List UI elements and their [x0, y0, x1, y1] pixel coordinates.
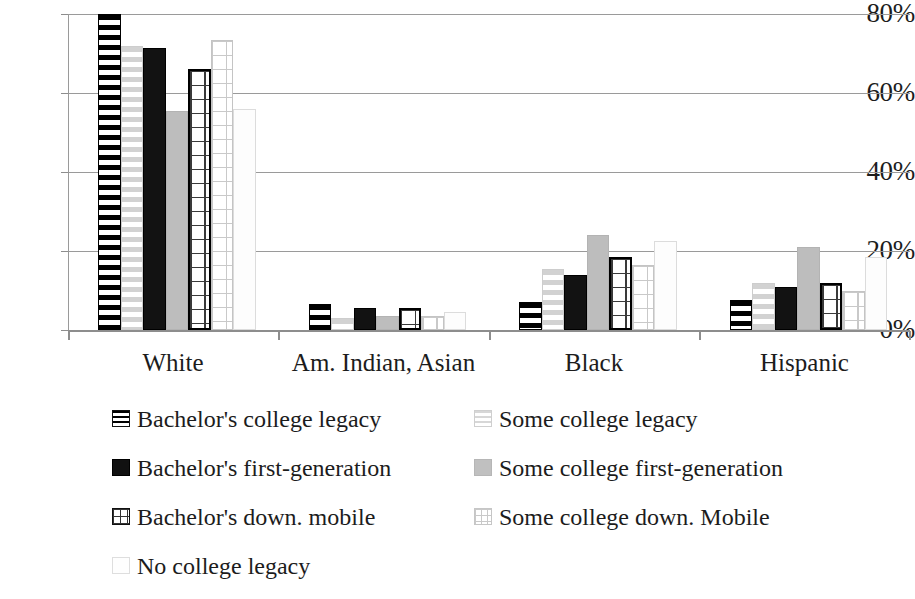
- x-category-label-amindian: Am. Indian, Asian: [278, 348, 489, 378]
- bar: [331, 318, 354, 330]
- x-axis-tick-4: [909, 331, 911, 340]
- bar: [166, 111, 189, 330]
- bar: [376, 316, 399, 330]
- legend-swatch-icon: [474, 508, 492, 525]
- x-axis-tick-3: [699, 331, 701, 340]
- legend-item-label: Bachelor's first-generation: [137, 453, 391, 483]
- bar: [820, 283, 843, 330]
- bar: [211, 40, 234, 330]
- legend-swatch-icon: [474, 459, 492, 476]
- bar: [865, 257, 888, 330]
- legend-item-label: Bachelor's college legacy: [137, 404, 381, 434]
- y-axis-tick-80: [61, 14, 68, 15]
- legend-item-some-college-first-generation: Some college first-generation: [474, 453, 894, 483]
- x-category-label-white: White: [68, 348, 278, 378]
- bar: [143, 48, 166, 330]
- legend-item-bachelors-down-mobile: Bachelor's down. mobile: [112, 502, 474, 532]
- chart-legend: Bachelor's college legacy Some college l…: [112, 404, 902, 599]
- y-axis-tick-60: [61, 93, 68, 94]
- legend-item-label: Some college legacy: [499, 404, 698, 434]
- bar: [609, 257, 632, 330]
- legend-item-some-college-down-mobile: Some college down. Mobile: [474, 502, 894, 532]
- bar-chart: 80% 60% 40% 20% 0% White Am. Indian, Asi…: [0, 0, 915, 599]
- legend-row: Bachelor's down. mobile Some college dow…: [112, 502, 902, 551]
- y-axis-tick-0: [61, 330, 68, 331]
- bar: [309, 304, 332, 330]
- bar: [188, 69, 211, 330]
- legend-swatch-icon: [112, 557, 130, 574]
- bar: [542, 269, 565, 330]
- legend-item-bachelors-first-generation: Bachelor's first-generation: [112, 453, 474, 483]
- bar: [121, 46, 144, 330]
- y-axis-tick-40: [61, 172, 68, 173]
- bar: [654, 241, 677, 330]
- bar-group-am-indian-asian: [309, 14, 467, 330]
- y-axis-tick-20: [61, 251, 68, 252]
- x-axis-tick-0: [68, 331, 70, 340]
- legend-swatch-icon: [112, 410, 130, 427]
- bar: [587, 235, 610, 330]
- plot-area: [68, 14, 910, 330]
- bar: [399, 308, 422, 330]
- bar: [564, 275, 587, 330]
- legend-row: Bachelor's first-generation Some college…: [112, 453, 902, 502]
- x-category-label-hispanic: Hispanic: [699, 348, 910, 378]
- legend-item-label: Bachelor's down. mobile: [137, 502, 375, 532]
- legend-row: Bachelor's college legacy Some college l…: [112, 404, 902, 453]
- legend-item-label: No college legacy: [137, 551, 310, 581]
- x-axis-tick-2: [489, 331, 491, 340]
- bar: [519, 302, 542, 330]
- bar: [797, 247, 820, 330]
- bar: [421, 316, 444, 330]
- bar-group-black: [519, 14, 677, 330]
- legend-row: No college legacy: [112, 551, 902, 599]
- legend-swatch-icon: [112, 459, 130, 476]
- legend-item-some-college-legacy: Some college legacy: [474, 404, 894, 434]
- bar: [842, 291, 865, 331]
- legend-item-label: Some college first-generation: [499, 453, 783, 483]
- legend-swatch-icon: [474, 410, 492, 427]
- legend-swatch-icon: [112, 508, 130, 525]
- legend-item-bachelors-college-legacy: Bachelor's college legacy: [112, 404, 474, 434]
- x-axis-tick-1: [278, 331, 280, 340]
- bar: [354, 308, 377, 330]
- bar: [730, 300, 753, 330]
- bar: [444, 312, 467, 330]
- bar-group-white: [98, 14, 256, 330]
- bar: [775, 287, 798, 330]
- legend-item-no-college-legacy: No college legacy: [112, 551, 474, 581]
- bar-group-hispanic: [730, 14, 888, 330]
- bar: [233, 109, 256, 330]
- bar: [632, 265, 655, 330]
- x-category-label-black: Black: [489, 348, 699, 378]
- bar: [98, 14, 121, 330]
- bar: [752, 283, 775, 330]
- legend-item-label: Some college down. Mobile: [499, 502, 770, 532]
